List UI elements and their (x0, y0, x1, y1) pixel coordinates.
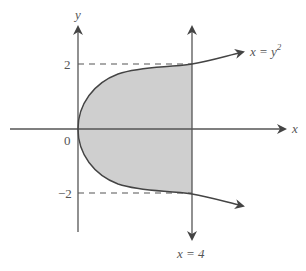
tick-label-neg2: −2 (58, 186, 72, 201)
curve-label: x = y2 (249, 42, 282, 59)
line-label: x = 4 (176, 246, 205, 261)
region-diagram: y x 0 2 −2 x = y2 x = 4 (0, 0, 306, 271)
origin-label: 0 (64, 133, 71, 148)
tick-label-2: 2 (64, 57, 71, 72)
curve-label-text: x = y (249, 44, 277, 59)
curve-label-exponent: 2 (277, 42, 282, 52)
y-axis-label: y (73, 7, 81, 22)
x-axis-label: x (291, 121, 298, 136)
